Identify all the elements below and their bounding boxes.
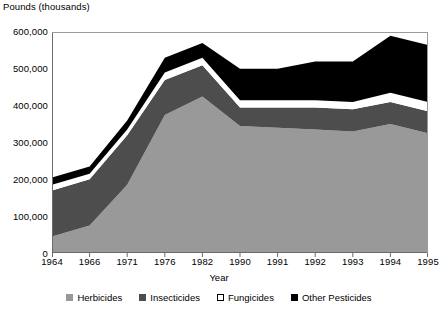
plot-area — [52, 31, 428, 258]
legend-item: Insecticides — [139, 292, 200, 303]
chart-legend: HerbicidesInsecticidesFungicidesOther Pe… — [0, 292, 438, 303]
legend-swatch-icon — [217, 294, 224, 301]
stacked-area-plot — [52, 31, 428, 258]
x-tick-label: 1971 — [116, 256, 138, 267]
x-tick-label: 1993 — [342, 256, 364, 267]
legend-item: Fungicides — [217, 292, 274, 303]
x-tick-label: 1964 — [41, 256, 63, 267]
y-axis-tick-labels: 0100,000200,000300,000400,000500,000600,… — [0, 0, 48, 318]
legend-label: Herbicides — [77, 292, 122, 303]
x-tick-label: 1991 — [267, 256, 289, 267]
x-tick-label: 1994 — [380, 256, 402, 267]
legend-swatch-icon — [66, 294, 73, 301]
legend-swatch-icon — [139, 294, 146, 301]
legend-item: Herbicides — [66, 292, 122, 303]
legend-swatch-icon — [291, 294, 298, 301]
x-tick-label: 1966 — [79, 256, 101, 267]
legend-item: Other Pesticides — [291, 292, 372, 303]
legend-label: Fungicides — [228, 292, 274, 303]
legend-label: Other Pesticides — [302, 292, 372, 303]
y-tick-label: 100,000 — [13, 211, 48, 222]
x-axis-tick-labels: 1964196619711976198219901991199219931994… — [0, 256, 438, 270]
y-tick-label: 500,000 — [13, 63, 48, 74]
x-tick-label: 1995 — [417, 256, 439, 267]
y-tick-label: 200,000 — [13, 174, 48, 185]
x-tick-label: 1990 — [229, 256, 251, 267]
y-tick-label: 400,000 — [13, 100, 48, 111]
x-axis-title: Year — [0, 272, 438, 283]
x-tick-label: 1982 — [192, 256, 214, 267]
y-tick-label: 600,000 — [13, 26, 48, 37]
legend-label: Insecticides — [150, 292, 200, 303]
y-tick-label: 300,000 — [13, 137, 48, 148]
x-tick-label: 1992 — [304, 256, 326, 267]
x-tick-label: 1976 — [154, 256, 176, 267]
